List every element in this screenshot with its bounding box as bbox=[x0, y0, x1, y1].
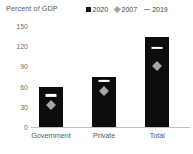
x-axis-label-private: Private bbox=[93, 131, 115, 140]
y-axis-tick-label: 0 bbox=[4, 124, 28, 131]
legend-label-2019: 2019 bbox=[152, 6, 168, 13]
y-axis-tick-label: 120 bbox=[4, 43, 28, 50]
bar-total bbox=[145, 37, 169, 127]
y-axis-tick-label: 60 bbox=[4, 83, 28, 90]
legend-item-2007[interactable]: 2007 bbox=[115, 6, 137, 13]
y-axis-tick-label: 90 bbox=[4, 63, 28, 70]
legend-label-2020: 2020 bbox=[93, 6, 109, 13]
square-marker-icon bbox=[86, 7, 91, 12]
x-axis-label-total: Total bbox=[150, 131, 165, 140]
y-axis-tick-label: 30 bbox=[4, 103, 28, 110]
legend-item-2019[interactable]: 2019 bbox=[144, 6, 168, 13]
legend-item-2020[interactable]: 2020 bbox=[86, 6, 108, 13]
dash-marker-private bbox=[99, 80, 110, 82]
x-axis-line bbox=[31, 127, 190, 128]
chart-container: Percent of GDP 2020 2007 2019 0306090120… bbox=[0, 0, 193, 154]
y-axis: 0306090120150 bbox=[0, 0, 28, 154]
bar-private bbox=[92, 77, 116, 127]
y-axis-tick-label: 150 bbox=[4, 23, 28, 30]
x-axis-label-government: Government bbox=[31, 131, 71, 140]
dash-marker-icon bbox=[144, 9, 150, 11]
dash-marker-government bbox=[46, 94, 57, 96]
legend-label-2007: 2007 bbox=[122, 6, 138, 13]
chart-legend: 2020 2007 2019 bbox=[86, 6, 168, 13]
plot-area bbox=[31, 26, 188, 127]
diamond-marker-icon bbox=[114, 6, 120, 12]
dash-marker-total bbox=[152, 47, 163, 49]
